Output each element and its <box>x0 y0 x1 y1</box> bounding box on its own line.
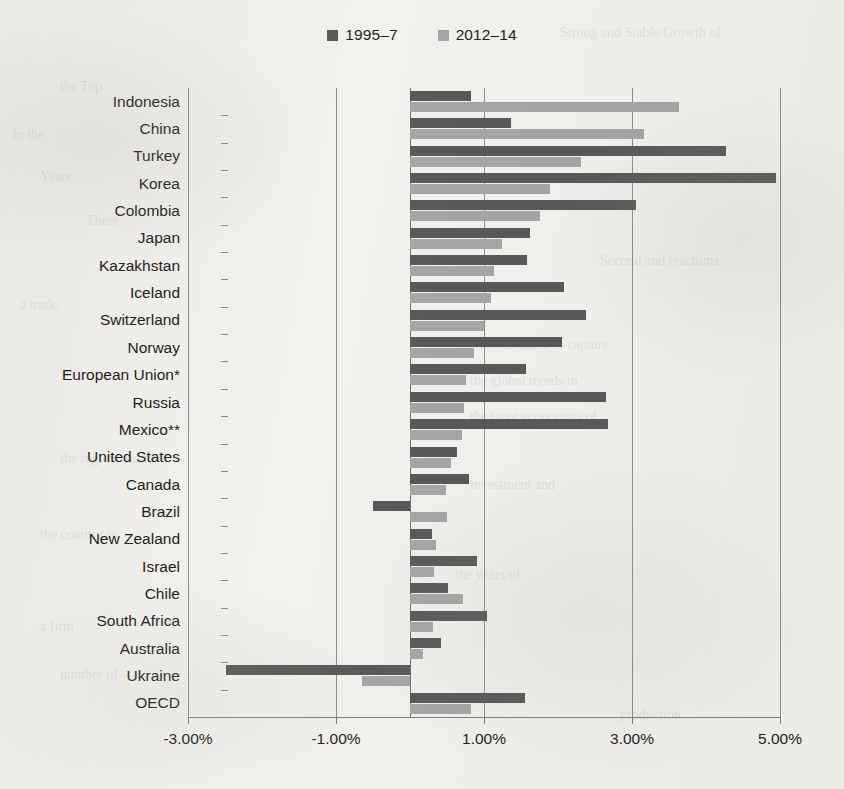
bar <box>410 392 606 402</box>
bar-group <box>188 690 780 717</box>
bar-group <box>188 635 780 662</box>
x-axis-tick-label: 3.00% <box>610 730 654 748</box>
category-tick <box>221 170 228 171</box>
bar-group <box>188 498 780 525</box>
category-tick <box>221 471 228 472</box>
bar <box>410 594 463 604</box>
category-label-russia: Russia <box>0 395 180 411</box>
bar <box>410 403 464 413</box>
bar <box>410 184 550 194</box>
bar-group <box>188 197 780 224</box>
category-tick <box>221 115 228 116</box>
bar <box>373 501 410 511</box>
category-tick <box>221 307 228 308</box>
category-label-china: China <box>0 121 180 137</box>
bar <box>410 704 471 714</box>
bar-group <box>188 416 780 443</box>
category-tick <box>221 608 228 609</box>
bar <box>410 321 484 331</box>
bar <box>410 512 447 522</box>
bar-group <box>188 225 780 252</box>
category-tick <box>221 526 228 527</box>
bar-group <box>188 143 780 170</box>
bar <box>410 102 679 112</box>
bar <box>410 118 511 128</box>
bar-group <box>188 334 780 361</box>
category-tick <box>221 690 228 691</box>
category-label-indonesia: Indonesia <box>0 94 180 110</box>
legend-item-2012-14: 2012–14 <box>438 26 517 44</box>
bar-group <box>188 608 780 635</box>
category-tick <box>221 361 228 362</box>
category-label-norway: Norway <box>0 340 180 356</box>
category-label-turkey: Turkey <box>0 148 180 164</box>
category-label-united-states: United States <box>0 449 180 465</box>
bar-group <box>188 252 780 279</box>
gridline-5 <box>780 88 781 717</box>
category-label-iceland: Iceland <box>0 285 180 301</box>
bar <box>410 348 474 358</box>
category-label-european-union: European Union* <box>0 367 180 383</box>
category-label-kazakhstan: Kazakhstan <box>0 258 180 274</box>
bar <box>410 430 462 440</box>
legend-swatch-light <box>438 30 449 41</box>
bar <box>410 693 525 703</box>
bar <box>410 638 441 648</box>
bar <box>410 649 423 659</box>
bar <box>410 611 487 621</box>
category-tick <box>221 225 228 226</box>
bar <box>410 228 530 238</box>
bar <box>410 364 526 374</box>
category-label-australia: Australia <box>0 641 180 657</box>
x-axis-tick-label: -3.00% <box>163 730 212 748</box>
category-tick <box>221 279 228 280</box>
x-axis-tick-label: 1.00% <box>462 730 506 748</box>
x-axis-tick <box>336 717 337 724</box>
chart-legend: 1995–7 2012–14 <box>0 26 844 44</box>
bar <box>410 129 644 139</box>
x-axis-tick <box>632 717 633 724</box>
bar <box>410 200 636 210</box>
bar <box>362 676 410 686</box>
bar <box>410 419 608 429</box>
bar <box>410 91 471 101</box>
category-label-israel: Israel <box>0 559 180 575</box>
x-axis-tick-label: 5.00% <box>758 730 802 748</box>
bar <box>410 266 494 276</box>
bar-group <box>188 444 780 471</box>
bar-group <box>188 471 780 498</box>
bar <box>410 540 436 550</box>
category-label-brazil: Brazil <box>0 504 180 520</box>
x-axis-tick-labels: -3.00%-1.00%1.00%3.00%5.00% <box>0 730 844 756</box>
x-axis-tick <box>188 717 189 724</box>
bar-group <box>188 580 780 607</box>
bar-group <box>188 553 780 580</box>
category-tick <box>221 197 228 198</box>
category-tick <box>221 662 228 663</box>
category-label-japan: Japan <box>0 230 180 246</box>
category-tick <box>221 553 228 554</box>
category-tick <box>221 416 228 417</box>
bar-group <box>188 279 780 306</box>
category-label-new-zealand: New Zealand <box>0 531 180 547</box>
category-tick <box>221 444 228 445</box>
category-tick <box>221 580 228 581</box>
bar <box>410 146 726 156</box>
bar <box>410 282 564 292</box>
bar <box>410 157 581 167</box>
plot-area <box>188 88 780 717</box>
category-label-mexico: Mexico** <box>0 422 180 438</box>
legend-item-1995-7: 1995–7 <box>327 26 397 44</box>
bar <box>410 567 434 577</box>
category-tick <box>221 635 228 636</box>
category-label-ukraine: Ukraine <box>0 668 180 684</box>
bar <box>410 556 477 566</box>
bar <box>410 211 540 221</box>
category-label-oecd: OECD <box>0 695 180 711</box>
category-label-chile: Chile <box>0 586 180 602</box>
category-tick <box>221 143 228 144</box>
legend-label-1995-7: 1995–7 <box>345 26 397 44</box>
category-label-korea: Korea <box>0 176 180 192</box>
bar <box>410 474 469 484</box>
legend-swatch-dark <box>327 30 338 41</box>
